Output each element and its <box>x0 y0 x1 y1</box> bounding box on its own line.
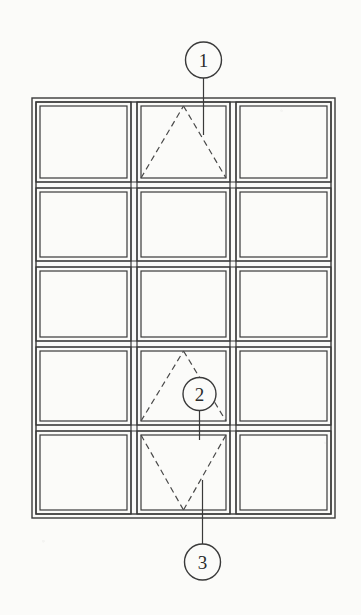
grid-cell-r5-c2-inner <box>141 435 226 510</box>
grid-cell-r2-c2-inner <box>141 192 226 257</box>
grid-cell-r1-c1 <box>36 102 131 182</box>
grid-cell-r5-c3 <box>236 431 331 514</box>
hopper-symbol-bottom-left-leg <box>141 435 184 510</box>
grid-cell-r2-c3 <box>236 188 331 261</box>
grid-cell-r2-c2 <box>137 188 230 261</box>
hopper-symbol-bottom-right-leg <box>184 435 227 510</box>
grid-cell-r1-c2 <box>137 102 230 182</box>
grid-cell-r3-c2-inner <box>141 271 226 337</box>
grid-cell-r2-c3-inner <box>240 192 327 257</box>
grid-cell-r1-c3 <box>236 102 331 182</box>
grid-cell-r4-c2 <box>137 347 230 425</box>
outer-frame-inner-outline <box>36 102 331 514</box>
drawing-page: 123 <box>0 0 361 615</box>
grid-cell-r5-c1 <box>36 431 131 514</box>
grid-cell-r2-c1 <box>36 188 131 261</box>
awning-symbol-top-right-leg <box>184 106 227 178</box>
grid-cell-r4-c1-inner <box>40 351 127 421</box>
grid-cell-r4-c3-inner <box>240 351 327 421</box>
grid-cell-r4-c3 <box>236 347 331 425</box>
awning-symbol-top-left-leg <box>141 106 184 178</box>
callout-balloon-2-label: 2 <box>195 384 205 405</box>
grid-cell-r1-c3-inner <box>240 106 327 178</box>
grid-cell-r5-c3-inner <box>240 435 327 510</box>
grid-cell-r4-c1 <box>36 347 131 425</box>
callout-balloon-1-label: 1 <box>199 50 209 71</box>
grid-cell-r1-c2-inner <box>141 106 226 178</box>
awning-symbol-middle-left-leg <box>141 351 184 421</box>
grid-cell-r1-c1-inner <box>40 106 127 178</box>
grid-cell-r3-c3 <box>236 267 331 341</box>
grid-cell-r3-c1 <box>36 267 131 341</box>
callout-balloon-3-label: 3 <box>198 552 208 573</box>
grid-cell-r3-c1-inner <box>40 271 127 337</box>
grid-cell-r5-c1-inner <box>40 435 127 510</box>
grid-cell-r5-c2 <box>137 431 230 514</box>
grid-cell-r3-c2 <box>137 267 230 341</box>
outer-frame-outline <box>32 98 335 518</box>
grid-cell-r2-c1-inner <box>40 192 127 257</box>
grid-cell-r3-c3-inner <box>240 271 327 337</box>
technical-drawing-canvas: 123 <box>0 0 361 615</box>
